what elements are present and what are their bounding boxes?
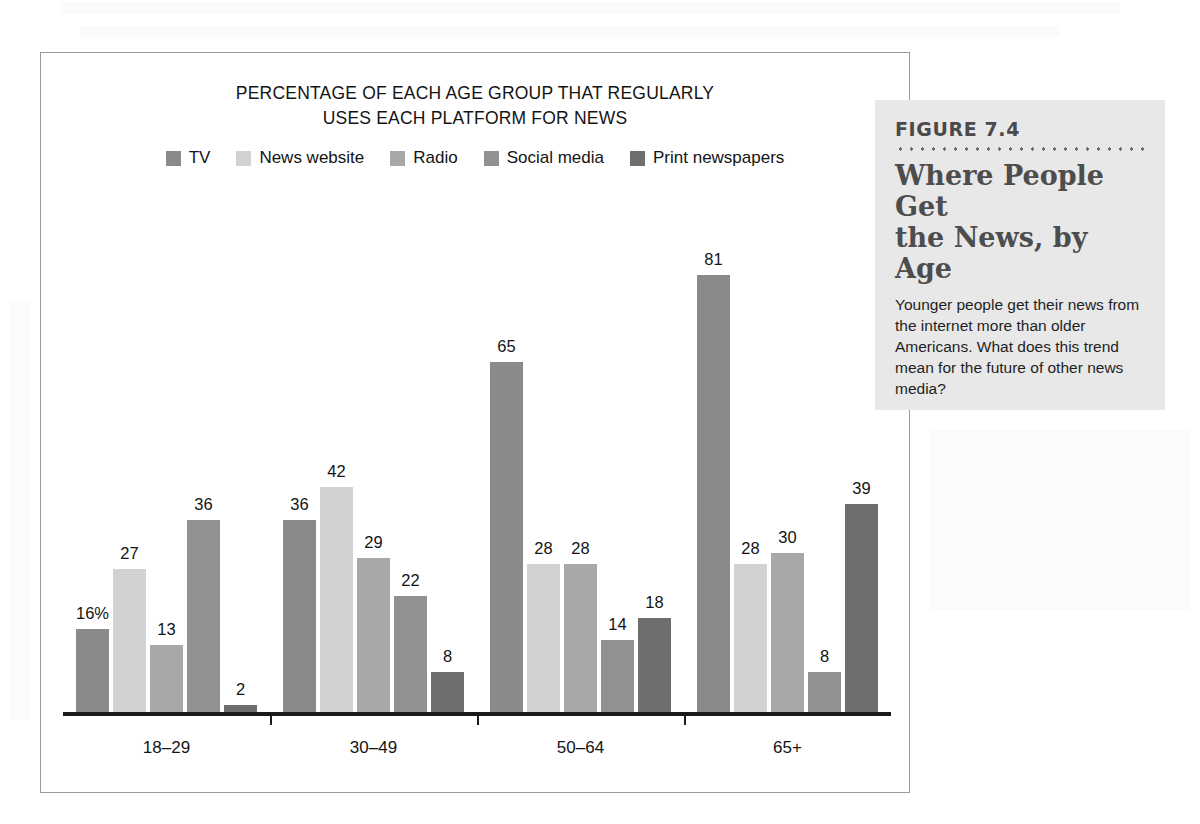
figure-callout-box: FIGURE 7.4 Where People Get the News, by… (875, 100, 1165, 410)
bar-radio[interactable] (357, 558, 390, 716)
x-axis-line (63, 712, 891, 716)
bar-value-label: 81 (704, 250, 722, 269)
bar-group-1829: 16%2713362 (63, 203, 270, 716)
bar-wrapper: 28 (527, 203, 560, 716)
bar-tv[interactable] (697, 275, 730, 716)
bar-wrapper: 13 (150, 203, 183, 716)
legend-swatch-icon (236, 151, 251, 166)
bar-value-label: 13 (157, 620, 175, 639)
x-axis-label-3049: 30–49 (270, 738, 477, 758)
bar-value-label: 39 (852, 479, 870, 498)
legend-label: Social media (507, 148, 604, 168)
chart-title-line-1: PERCENTAGE OF EACH AGE GROUP THAT REGULA… (41, 81, 909, 106)
figure-number: FIGURE 7.4 (895, 118, 1145, 140)
bar-value-label: 16% (76, 604, 109, 623)
bar-value-label: 65 (497, 337, 515, 356)
figure-title-line-2: the News, by Age (895, 222, 1145, 284)
bar-value-label: 36 (290, 495, 308, 514)
legend-swatch-icon (630, 151, 645, 166)
bar-social-media[interactable] (394, 596, 427, 716)
bar-value-label: 28 (534, 539, 552, 558)
bar-wrapper: 36 (283, 203, 316, 716)
bar-value-label: 29 (364, 533, 382, 552)
bar-wrapper: 2 (224, 203, 257, 716)
legend-swatch-icon (390, 151, 405, 166)
bar-value-label: 30 (778, 528, 796, 547)
bar-wrapper: 28 (734, 203, 767, 716)
bar-value-label: 14 (608, 615, 626, 634)
legend-swatch-icon (166, 151, 181, 166)
x-axis-tick (270, 716, 272, 725)
legend-label: Print newspapers (653, 148, 784, 168)
bar-value-label: 27 (120, 544, 138, 563)
x-axis-category-labels: 18–2930–4950–6465+ (63, 738, 891, 758)
bar-value-label: 22 (401, 571, 419, 590)
bar-wrapper: 28 (564, 203, 597, 716)
page-bleedthrough-right (930, 430, 1190, 610)
legend-item-radio: Radio (390, 148, 457, 168)
figure-caption: Younger people get their news from the i… (895, 294, 1145, 399)
bar-social-media[interactable] (808, 672, 841, 716)
bar-value-label: 42 (327, 462, 345, 481)
bar-wrapper: 39 (845, 203, 878, 716)
bar-print-newspapers[interactable] (638, 618, 671, 716)
chart-plot-area: 16%27133623642292286528281418812830839 (63, 203, 891, 716)
bar-value-label: 18 (645, 593, 663, 612)
bar-wrapper: 36 (187, 203, 220, 716)
bar-groups-container: 16%27133623642292286528281418812830839 (63, 203, 891, 716)
bar-news-website[interactable] (113, 569, 146, 716)
x-axis-tick (684, 716, 686, 725)
bar-wrapper: 22 (394, 203, 427, 716)
bar-value-label: 28 (741, 539, 759, 558)
bar-news-website[interactable] (527, 564, 560, 716)
bar-value-label: 8 (820, 647, 829, 666)
legend-swatch-icon (484, 151, 499, 166)
x-axis-label-65+: 65+ (684, 738, 891, 758)
bar-wrapper: 30 (771, 203, 804, 716)
bar-print-newspapers[interactable] (431, 672, 464, 716)
bar-value-label: 2 (236, 680, 245, 699)
bar-tv[interactable] (283, 520, 316, 716)
bar-radio[interactable] (564, 564, 597, 716)
bar-tv[interactable] (76, 629, 109, 716)
bar-value-label: 36 (194, 495, 212, 514)
bar-value-label: 8 (443, 647, 452, 666)
bar-tv[interactable] (490, 362, 523, 716)
chart-title: PERCENTAGE OF EACH AGE GROUP THAT REGULA… (41, 81, 909, 131)
bar-news-website[interactable] (734, 564, 767, 716)
bar-radio[interactable] (150, 645, 183, 716)
bar-news-website[interactable] (320, 487, 353, 716)
legend-label: TV (189, 148, 211, 168)
bar-value-label: 28 (571, 539, 589, 558)
bar-wrapper: 81 (697, 203, 730, 716)
bar-wrapper: 29 (357, 203, 390, 716)
bar-wrapper: 16% (76, 203, 109, 716)
bar-social-media[interactable] (187, 520, 220, 716)
bar-wrapper: 8 (431, 203, 464, 716)
bar-print-newspapers[interactable] (845, 504, 878, 716)
bar-social-media[interactable] (601, 640, 634, 716)
chart-frame: PERCENTAGE OF EACH AGE GROUP THAT REGULA… (40, 52, 910, 793)
chart-legend: TVNews websiteRadioSocial mediaPrint new… (41, 148, 909, 168)
chart-title-line-2: USES EACH PLATFORM FOR NEWS (41, 106, 909, 131)
bar-radio[interactable] (771, 553, 804, 716)
bar-wrapper: 27 (113, 203, 146, 716)
bar-wrapper: 14 (601, 203, 634, 716)
legend-label: Radio (413, 148, 457, 168)
page-bleedthrough-left (10, 300, 30, 720)
legend-label: News website (259, 148, 364, 168)
page-bleedthrough-top-line-2 (80, 26, 1060, 37)
bar-wrapper: 42 (320, 203, 353, 716)
legend-item-print-newspapers: Print newspapers (630, 148, 784, 168)
bar-wrapper: 8 (808, 203, 841, 716)
bar-wrapper: 18 (638, 203, 671, 716)
bar-group-3049: 364229228 (270, 203, 477, 716)
x-axis-label-5064: 50–64 (477, 738, 684, 758)
dotted-rule-divider (895, 147, 1145, 151)
figure-title: Where People Get the News, by Age (895, 160, 1145, 284)
bar-group-65+: 812830839 (684, 203, 891, 716)
bar-wrapper: 65 (490, 203, 523, 716)
x-axis-label-1829: 18–29 (63, 738, 270, 758)
figure-title-line-1: Where People Get (895, 160, 1145, 222)
bar-group-5064: 6528281418 (477, 203, 684, 716)
